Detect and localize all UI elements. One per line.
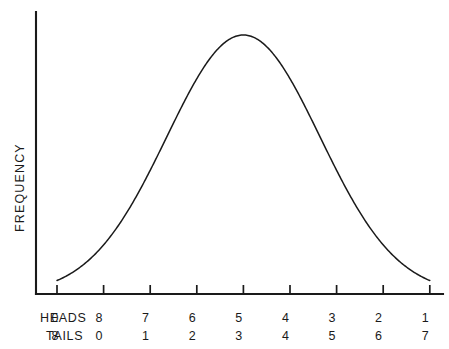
heads-tick-label-8: 0 [52, 311, 59, 325]
tails-tick-labels: 0 1 2 3 4 5 6 7 8 [52, 329, 429, 343]
tails-tick-label-6: 6 [375, 329, 382, 343]
tails-tick-label-1: 1 [142, 329, 149, 343]
tails-tick-label-2: 2 [189, 329, 196, 343]
x-axis-ticks [57, 285, 430, 294]
tails-tick-label-3: 3 [235, 329, 242, 343]
heads-tick-label-1: 7 [142, 311, 149, 325]
tails-tick-label-4: 4 [282, 329, 289, 343]
heads-tick-labels: 8 7 6 5 4 3 2 1 0 [52, 311, 429, 325]
heads-tick-label-4: 4 [282, 311, 289, 325]
heads-tick-label-5: 3 [329, 311, 336, 325]
heads-tick-label-6: 2 [375, 311, 382, 325]
distribution-curve [57, 35, 430, 281]
heads-tick-label-7: 1 [422, 311, 429, 325]
heads-tick-label-2: 6 [189, 311, 196, 325]
heads-tick-label-0: 8 [96, 311, 103, 325]
chart-root: FREQUENCY HEADS TAILS 8 7 6 5 4 3 2 1 0 … [0, 0, 449, 349]
tails-tick-label-5: 5 [329, 329, 336, 343]
frequency-distribution-chart: FREQUENCY HEADS TAILS 8 7 6 5 4 3 2 1 0 … [0, 0, 449, 349]
tails-tick-label-7: 7 [422, 329, 429, 343]
tails-tick-label-0: 0 [96, 329, 103, 343]
tails-tick-label-8: 8 [52, 329, 59, 343]
y-axis-label: FREQUENCY [13, 143, 27, 232]
axis-row-name-heads: HEADS [40, 311, 87, 325]
heads-tick-label-3: 5 [235, 311, 242, 325]
